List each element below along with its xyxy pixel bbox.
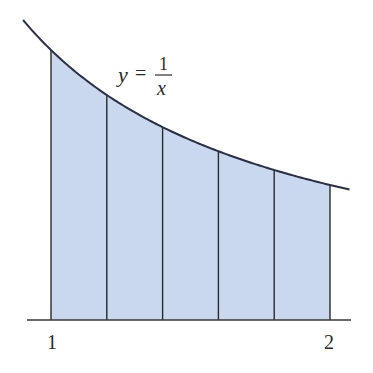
diagram-canvas: y = 1 x 1 2 [0, 0, 373, 373]
x-label-start: 1 [47, 331, 57, 353]
x-label-end: 2 [324, 331, 334, 353]
function-label-numerator: 1 [159, 54, 168, 74]
function-label-y: y [116, 62, 128, 87]
riemann-diagram: y = 1 x 1 2 [0, 0, 373, 373]
shaded-area [51, 50, 330, 320]
function-label-equals: = [135, 62, 146, 84]
function-label-denominator: x [156, 77, 166, 99]
